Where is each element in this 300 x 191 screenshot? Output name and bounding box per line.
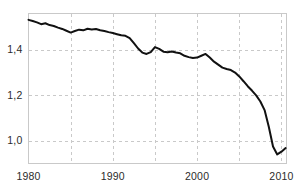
chart-plot-area (0, 0, 300, 191)
x-axis-tick-label: 2000 (172, 171, 222, 182)
y-axis-tick-label: 1,2 (7, 90, 22, 101)
x-axis-tick-label: 1990 (88, 171, 138, 182)
line-chart: 1,4 1,2 1,0 1980 1990 2000 2010 (0, 0, 300, 191)
x-axis-tick-label: 1980 (4, 171, 54, 182)
y-axis-tick-label: 1,0 (7, 135, 22, 146)
x-axis-tick-label: 2010 (256, 171, 300, 182)
y-axis-tick-label: 1,4 (7, 44, 22, 55)
